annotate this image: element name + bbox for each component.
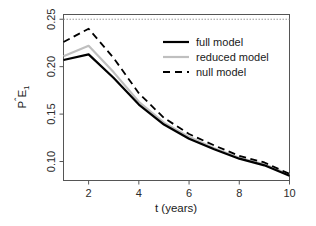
legend-label-null-model: null model bbox=[196, 66, 246, 78]
legend-label-reduced-model: reduced model bbox=[196, 51, 269, 63]
x-axis-title: t (years) bbox=[155, 202, 197, 214]
y-tick-label: 0.10 bbox=[45, 151, 57, 172]
prediction-error-line-chart: 0.100.150.200.25 246810 t (years) PˆE1 f… bbox=[0, 0, 316, 226]
legend-label-full-model: full model bbox=[196, 36, 243, 48]
x-tick-label: 6 bbox=[186, 187, 192, 199]
y-tick-label: 0.25 bbox=[45, 9, 57, 30]
y-axis-title-subscript: 1 bbox=[22, 85, 31, 90]
x-tick-label: 8 bbox=[236, 187, 242, 199]
figure-container: 0.100.150.200.25 246810 t (years) PˆE1 f… bbox=[0, 0, 316, 226]
x-tick-label: 10 bbox=[283, 187, 295, 199]
x-tick-label: 2 bbox=[86, 187, 92, 199]
y-tick-label: 0.20 bbox=[45, 56, 57, 77]
x-tick-label: 4 bbox=[136, 187, 142, 199]
y-tick-label: 0.15 bbox=[45, 103, 57, 124]
